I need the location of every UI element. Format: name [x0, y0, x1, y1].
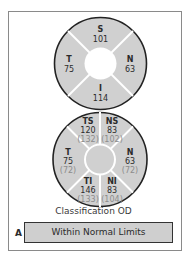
sector-i-label: I	[99, 84, 102, 93]
quadrant-chart: S 101 T 75 N 63 I 114	[55, 18, 147, 110]
sector-ti-value: 146	[80, 186, 95, 195]
classification-row-label: A	[15, 228, 22, 238]
sector-ti-label: TI	[84, 177, 92, 186]
sector-i-value: 114	[93, 94, 108, 103]
sector-t-value: 75	[64, 65, 74, 74]
sector-n2-value: 63	[125, 157, 135, 166]
sector-ni-value: 83	[107, 186, 117, 195]
sector-ns-ref: (102)	[101, 135, 123, 144]
sector-chart: TS 120 (132) NS 83 (102) T 75 (72) N 63 …	[53, 112, 147, 207]
sector-ts-label: TS	[82, 117, 93, 126]
sector-n-value: 63	[125, 65, 135, 74]
sector-ts-value: 120	[80, 126, 95, 135]
sector-ts-ref: (132)	[77, 135, 99, 144]
classification-status-badge: Within Normal Limits	[24, 222, 173, 243]
sector-ni-ref: (104)	[101, 195, 123, 204]
sector-n2-ref: (72)	[122, 166, 138, 175]
sector-s-label: S	[98, 25, 104, 34]
sector-ni-label: NI	[107, 177, 117, 186]
sector-s-value: 101	[93, 35, 108, 44]
sector-n-label: N	[127, 55, 134, 64]
sector-ns-label: NS	[106, 117, 119, 126]
sector-t2-ref: (72)	[60, 166, 76, 175]
sector-n2-label: N	[127, 148, 134, 157]
sector-t-label: T	[66, 55, 72, 64]
sector-t2-label: T	[65, 148, 71, 157]
classification-title: Classification OD	[0, 206, 187, 216]
sector-ti-ref: (133)	[77, 195, 99, 204]
sector-ns-value: 83	[107, 126, 117, 135]
sector-t2-value: 75	[63, 157, 73, 166]
